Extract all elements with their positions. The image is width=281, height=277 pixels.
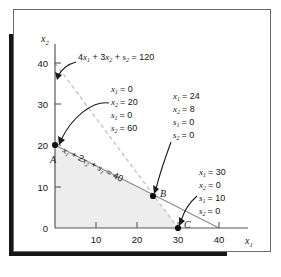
annotation-b-line-3: s1= 0: [173, 117, 194, 128]
x-tick-label-20: 20: [132, 234, 143, 245]
annotation-b-line-2: x2= 8: [172, 104, 195, 115]
constraint-2-label: 4x1 + 3x2 + s2 = 120: [78, 52, 154, 63]
y-axis-label: x2: [40, 33, 49, 46]
vertex-label-c: C: [184, 219, 191, 230]
vertex-point-a: [52, 142, 58, 148]
annotation-c-line-3: s1= 10: [199, 193, 225, 204]
x-tick-label-30: 30: [173, 234, 184, 245]
x-tick-label-40: 40: [214, 234, 225, 245]
annotation-a-line-3: s1= 0: [111, 110, 132, 121]
annotation-c-line-2: x2= 0: [198, 180, 221, 191]
annotation-point-b: x1= 24 x2= 8 s1= 0 s2= 0: [153, 91, 200, 194]
y-tick-label-30: 30: [37, 99, 48, 110]
arrowhead-constraint-2: [55, 72, 62, 80]
plot-canvas: 40 30 20 10 0 10 20 30 40 x2 x1 4x1 + 3x…: [0, 0, 281, 277]
annotation-b-line-1: x1= 24: [172, 91, 200, 102]
vertex-point-c: [175, 225, 181, 231]
origin-label: 0: [43, 223, 48, 234]
vertex-point-b: [150, 193, 156, 199]
annotation-point-a: x1= 0 x2= 20 s1= 0 s2= 60: [58, 84, 138, 145]
vertex-label-a: A: [49, 154, 57, 165]
arrowhead-vertex-b: [153, 185, 159, 194]
y-tick-label-10: 10: [37, 182, 48, 193]
figure-root: 40 30 20 10 0 10 20 30 40 x2 x1 4x1 + 3x…: [0, 0, 281, 277]
x-axis-label: x1: [244, 235, 253, 248]
x-tick-label-10: 10: [91, 234, 102, 245]
annotation-c-line-4: s2= 0: [199, 206, 220, 217]
arrow-to-vertex-a: [61, 103, 109, 140]
vertex-label-b: B: [160, 188, 166, 199]
arrow-to-vertex-c: [181, 196, 197, 221]
y-tick-label-40: 40: [37, 58, 48, 69]
y-tick-label-20: 20: [37, 140, 48, 151]
annotation-b-line-4: s2= 0: [173, 130, 194, 141]
annotation-point-c: x1= 30 x2= 0 s1= 10 s2= 0: [179, 167, 226, 226]
annotation-c-line-1: x1= 30: [198, 167, 226, 178]
arrow-to-vertex-b: [156, 142, 171, 189]
annotation-a-line-2: x2= 20: [110, 97, 138, 108]
arrowhead-vertex-a: [58, 136, 65, 145]
annotation-a-line-1: x1= 0: [110, 84, 133, 95]
arrow-to-constraint-2: [58, 62, 76, 76]
annotation-a-line-4: s2= 60: [111, 123, 137, 134]
